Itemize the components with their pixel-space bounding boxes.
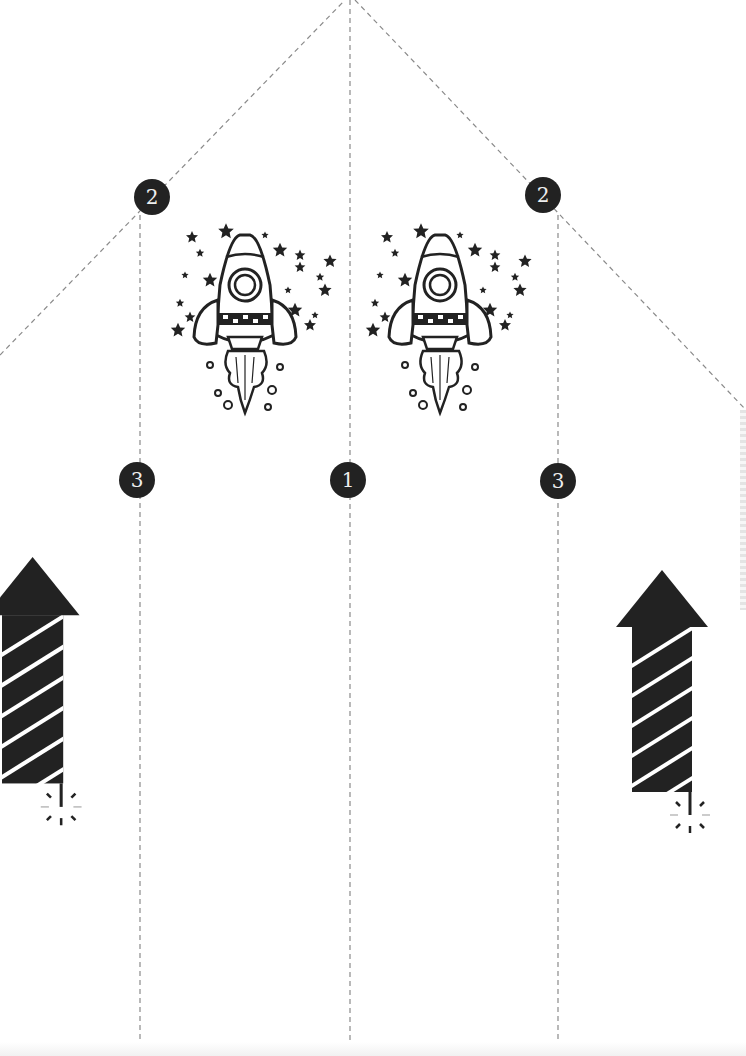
step-badge: 3 [119, 462, 155, 498]
firework-rocket-icon [612, 570, 712, 852]
step-badge: 2 [525, 177, 561, 213]
paper-bottom-texture [0, 1042, 746, 1056]
step-badge: 1 [330, 462, 366, 498]
rocket-with-stars-icon [366, 223, 532, 413]
fold-lines [0, 0, 746, 1056]
step-badge: 3 [540, 463, 576, 499]
diagonal-fold-left [0, 0, 345, 355]
firework-rocket-icon [0, 557, 84, 845]
fold-template [0, 0, 746, 1056]
paper-edge-texture [740, 410, 746, 610]
step-badge: 2 [134, 179, 170, 215]
rocket-with-stars-icon [171, 223, 337, 413]
